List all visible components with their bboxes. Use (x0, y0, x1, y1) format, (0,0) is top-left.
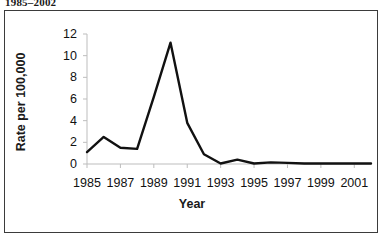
y-tick-label: 12 (51, 28, 77, 41)
figure-caption-fragment: 1985–2002 (5, 0, 56, 8)
x-tick-label: 2001 (334, 177, 374, 190)
y-tick-label: 8 (51, 71, 77, 84)
x-axis-title: Year (5, 197, 379, 211)
data-series-line (87, 43, 371, 164)
y-tick-label: 4 (51, 115, 77, 128)
y-tick-label: 0 (51, 158, 77, 171)
y-axis-title: Rate per 100,000 (14, 42, 28, 162)
y-tick-marks (83, 34, 87, 164)
y-tick-label: 10 (51, 50, 77, 63)
y-tick-label: 6 (51, 93, 77, 106)
chart-frame: Rate per 100,000 Year 121086420 19851987… (4, 10, 378, 233)
y-tick-label: 2 (51, 136, 77, 149)
